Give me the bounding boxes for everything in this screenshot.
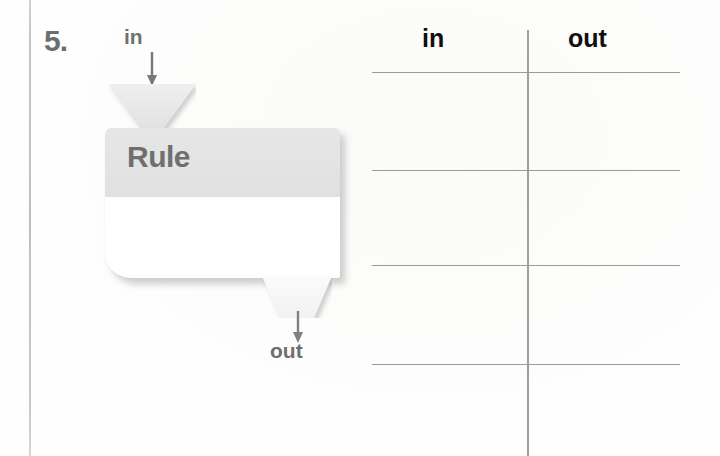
table-column-header-in: in (422, 26, 444, 51)
machine-output-label: out (270, 340, 303, 361)
machine-input-label: in (124, 26, 143, 47)
worksheet-page: 5. in Rule (0, 0, 720, 456)
table-row-divider (372, 170, 680, 171)
rule-machine-box: Rule (105, 128, 340, 278)
table-row-divider (372, 364, 680, 365)
funnel-down-icon (108, 84, 196, 128)
table-row-divider (372, 265, 680, 266)
arrow-down-icon (145, 52, 159, 86)
table-column-divider (527, 30, 529, 456)
table-column-header-out: out (568, 26, 607, 51)
in-out-table: in out (372, 0, 688, 456)
table-row-divider (372, 72, 680, 73)
problem-number: 5. (44, 26, 67, 56)
page-margin-line (29, 0, 31, 456)
rule-machine-title: Rule (127, 142, 190, 172)
